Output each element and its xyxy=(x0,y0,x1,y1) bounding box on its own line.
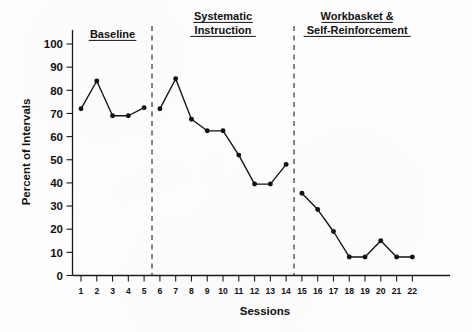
y-tick-label: 80 xyxy=(50,85,63,97)
data-point-marker xyxy=(126,113,131,118)
data-point-marker xyxy=(331,229,336,234)
y-tick-label: 20 xyxy=(50,223,63,235)
y-tick-label: 0 xyxy=(57,270,63,282)
x-tick-label: 14 xyxy=(281,286,291,296)
data-point-marker xyxy=(252,182,257,187)
x-tick-label: 2 xyxy=(94,286,99,296)
x-tick-label: 10 xyxy=(218,286,228,296)
x-tick-label: 9 xyxy=(205,286,210,296)
single-case-design-line-chart: 0102030405060708090100 12345678910111213… xyxy=(0,0,472,332)
y-tick-label: 100 xyxy=(44,38,63,50)
x-tick-label: 7 xyxy=(173,286,178,296)
data-point-marker xyxy=(268,182,273,187)
x-tick-label: 15 xyxy=(297,286,307,296)
phase-divider-lines xyxy=(152,26,294,275)
data-point-marker xyxy=(236,153,241,158)
data-point-marker xyxy=(221,128,226,133)
x-tick-label: 22 xyxy=(408,286,418,296)
data-point-marker xyxy=(205,128,210,133)
series-line-segment xyxy=(81,81,144,116)
y-tick-label: 50 xyxy=(50,154,63,166)
data-point-marker xyxy=(173,76,178,81)
data-point-marker xyxy=(315,207,320,212)
data-point-marker xyxy=(378,238,383,243)
x-tick-label: 20 xyxy=(376,286,386,296)
data-point-marker xyxy=(347,255,352,260)
chart-figure: 0102030405060708090100 12345678910111213… xyxy=(0,0,472,332)
data-point-marker xyxy=(79,106,84,111)
y-tick-label: 30 xyxy=(50,200,63,212)
x-tick-label: 1 xyxy=(79,286,84,296)
data-point-marker xyxy=(94,79,99,84)
phase-label-text: Self-Reinforcement xyxy=(307,24,408,36)
phase-label-text: Instruction xyxy=(195,24,252,36)
phase-label-text: Workbasket & xyxy=(321,10,394,22)
data-point-marker xyxy=(110,113,115,118)
x-tick-label: 5 xyxy=(142,286,147,296)
y-axis-ticks: 0102030405060708090100 xyxy=(44,38,73,282)
x-axis-ticks: 12345678910111213141516171819202122 xyxy=(79,276,418,296)
y-tick-label: 70 xyxy=(50,108,63,120)
y-tick-label: 90 xyxy=(50,61,63,73)
series-line-segment xyxy=(302,193,412,257)
x-tick-label: 8 xyxy=(189,286,194,296)
x-tick-label: 13 xyxy=(266,286,276,296)
x-axis-title: Sessions xyxy=(240,305,291,317)
phase-label-text: Systematic xyxy=(194,10,252,22)
data-point-marker xyxy=(142,105,147,110)
y-axis-title: Percent of Intervals xyxy=(20,99,32,206)
x-tick-label: 4 xyxy=(126,286,131,296)
x-tick-label: 6 xyxy=(158,286,163,296)
x-tick-label: 18 xyxy=(344,286,354,296)
x-tick-label: 11 xyxy=(234,286,243,296)
data-point-marker xyxy=(284,162,289,167)
x-tick-label: 21 xyxy=(392,286,402,296)
data-point-marker xyxy=(410,255,415,260)
data-series-group xyxy=(79,76,415,259)
x-tick-label: 3 xyxy=(110,286,115,296)
x-tick-label: 12 xyxy=(250,286,260,296)
phase-label-text: Baseline xyxy=(90,28,135,40)
data-point-marker xyxy=(299,191,304,196)
data-point-marker xyxy=(363,255,368,260)
phase-condition-labels: BaselineSystematicInstructionWorkbasket … xyxy=(89,10,411,40)
x-tick-label: 19 xyxy=(360,286,370,296)
data-point-marker xyxy=(394,255,399,260)
y-tick-label: 40 xyxy=(50,177,63,189)
y-tick-label: 60 xyxy=(50,131,63,143)
data-point-marker xyxy=(157,106,162,111)
x-tick-label: 17 xyxy=(329,286,339,296)
data-point-marker xyxy=(189,117,194,122)
x-tick-label: 16 xyxy=(313,286,323,296)
y-tick-label: 10 xyxy=(50,247,63,259)
axes-group xyxy=(73,30,451,276)
